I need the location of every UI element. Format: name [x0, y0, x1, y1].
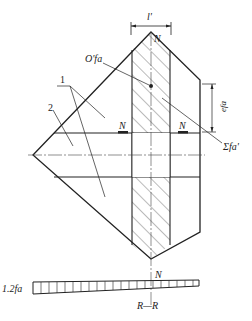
load-spread-outline	[33, 32, 200, 259]
dimension-efa	[202, 84, 216, 132]
label-section: R—R	[136, 300, 158, 311]
centroid-dot	[149, 84, 153, 88]
callout-1: 1	[60, 74, 65, 85]
stress-diagram	[33, 280, 199, 294]
label-sum-force: Σfa'	[222, 141, 240, 152]
callout-2: 2	[48, 102, 53, 113]
label-bottom-load: N	[154, 269, 163, 280]
label-centroid: O'fa	[85, 53, 102, 64]
label-stress-value: 1.2fa	[2, 283, 22, 294]
label-right-load: N	[178, 120, 187, 131]
label-l-prime: l'	[147, 11, 153, 22]
label-left-load: N	[118, 120, 127, 131]
label-top-load: N	[153, 33, 162, 44]
load-mark-left	[118, 131, 128, 134]
label-efa: efa	[218, 101, 228, 112]
diagram-canvas: l' N O'fa 1 2 N N efa Σfa' N 1.2fa R—R	[0, 0, 252, 321]
load-mark-right	[178, 131, 188, 134]
